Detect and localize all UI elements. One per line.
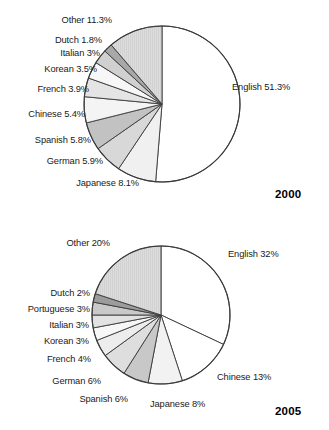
pie-2005-year: 2005 xyxy=(275,405,301,417)
pie-2000-label-italian: Italian 3% xyxy=(60,49,100,59)
pie-chart-2000: Other 11.3% Dutch 1.8% Italian 3% Korean… xyxy=(0,0,329,215)
pie-2005-label-other: Other 20% xyxy=(66,239,110,249)
pie-2005-label-italian: Italian 3% xyxy=(49,321,89,331)
pie-2000-year: 2000 xyxy=(275,188,301,200)
pie-2005-label-portuguese: Portuguese 3% xyxy=(28,305,90,315)
pie-2005-label-chinese: Chinese 13% xyxy=(217,373,271,383)
pie-2005-label-french: French 4% xyxy=(47,355,91,365)
pie-2000-label-other: Other 11.3% xyxy=(62,16,112,26)
pie-2000-slices xyxy=(84,26,240,182)
pie-2000-label-french: French 3.9% xyxy=(37,85,89,95)
pie-2005-label-japanese: Japanese 8% xyxy=(150,400,205,410)
pie-slice-english xyxy=(156,26,240,182)
pie-2000-label-dutch: Dutch 1.8% xyxy=(55,36,102,46)
pie-2005-slices xyxy=(92,246,230,384)
pie-2000-label-english: English 51.3% xyxy=(232,83,290,93)
pie-2000-label-german: German 5.9% xyxy=(47,157,103,167)
pie-chart-2005: Other 20% Dutch 2% Portuguese 3% Italian… xyxy=(0,215,329,430)
pie-2000-label-japanese: Japanese 8.1% xyxy=(76,179,139,189)
pie-2005-label-english: English 32% xyxy=(228,250,279,260)
pie-2000-label-korean: Korean 3.5% xyxy=(44,65,97,75)
pie-2005-label-korean: Korean 3% xyxy=(44,337,89,347)
pie-2000-svg xyxy=(0,0,329,215)
pie-2005-label-german: German 6% xyxy=(52,377,101,387)
pie-2005-label-dutch: Dutch 2% xyxy=(50,289,90,299)
pie-2000-label-spanish: Spanish 5.8% xyxy=(35,136,91,146)
pie-2005-label-spanish: Spanish 6% xyxy=(79,395,128,405)
pie-2000-label-chinese: Chinese 5.4% xyxy=(28,110,85,120)
